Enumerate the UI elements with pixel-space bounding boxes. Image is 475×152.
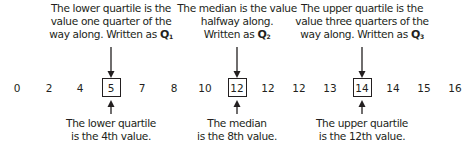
q3-note-line1: The upper quartile: [316, 117, 408, 130]
q2-note-line1: The median: [197, 117, 277, 130]
q1-description: The lower quartile is the value one quar…: [49, 2, 173, 43]
q1-desc-line3: way along. Written as Q1: [49, 28, 173, 43]
q3-written-as: way along. Written as: [300, 28, 408, 40]
q3-subscript: 3: [420, 33, 424, 40]
q2-desc-line2: halfway along.: [177, 15, 297, 28]
q3-up-arrow-icon: [357, 100, 367, 114]
q2-note-line2: is the 8th value.: [197, 130, 277, 143]
q1-symbol-letter: Q: [160, 28, 169, 41]
value-8-median: 12: [225, 80, 249, 96]
q3-note-line2: is the 12th value.: [316, 130, 408, 143]
value-12-upper-quartile: 14: [350, 80, 374, 96]
value-13: 14: [381, 80, 405, 96]
value-11: 13: [318, 80, 342, 96]
q2-written-as: Written as: [204, 28, 255, 40]
q2-subscript: 2: [266, 33, 270, 40]
value-15: 16: [443, 80, 467, 96]
q1-up-arrow-icon: [106, 100, 116, 114]
q2-description: The median is the value halfway along. W…: [177, 2, 297, 43]
q2-symbol-letter: Q: [257, 28, 266, 41]
q2-up-arrow-icon: [232, 100, 242, 114]
value-7: 10: [193, 80, 217, 96]
q3-description: The upper quartile is the value three qu…: [295, 2, 428, 43]
value-2: 2: [37, 80, 61, 96]
q3-down-arrow-icon: [357, 47, 367, 78]
q3-desc-line3: way along. Written as Q3: [295, 28, 428, 43]
value-4-lower-quartile: 5: [99, 80, 123, 96]
q2-symbol: Q2: [257, 28, 270, 41]
q1-subscript: 1: [169, 33, 173, 40]
q3-desc-line1: The upper quartile is the: [295, 2, 428, 15]
q1-down-arrow-icon: [106, 47, 116, 78]
value-9: 12: [256, 80, 280, 96]
q1-desc-line2: value one quarter of the: [49, 15, 173, 28]
value-6: 8: [162, 80, 186, 96]
q3-desc-line2: value three quarters of the: [295, 15, 428, 28]
value-10: 12: [287, 80, 311, 96]
q3-symbol-letter: Q: [411, 28, 420, 41]
q2-desc-line3: Written as Q2: [177, 28, 297, 43]
value-5: 7: [130, 80, 154, 96]
q3-position-note: The upper quartile is the 12th value.: [316, 117, 408, 143]
value-14: 15: [412, 80, 436, 96]
q1-symbol: Q1: [160, 28, 173, 41]
q2-down-arrow-icon: [232, 47, 242, 78]
value-3: 4: [68, 80, 92, 96]
q1-desc-line1: The lower quartile is the: [49, 2, 173, 15]
q1-position-note: The lower quartile is the 4th value.: [66, 117, 156, 143]
q2-position-note: The median is the 8th value.: [197, 117, 277, 143]
q1-note-line1: The lower quartile: [66, 117, 156, 130]
q2-desc-line1: The median is the value: [177, 2, 297, 15]
q3-symbol: Q3: [411, 28, 424, 41]
value-1: 0: [5, 80, 29, 96]
q1-written-as: way along. Written as: [49, 28, 157, 40]
q1-note-line2: is the 4th value.: [66, 130, 156, 143]
